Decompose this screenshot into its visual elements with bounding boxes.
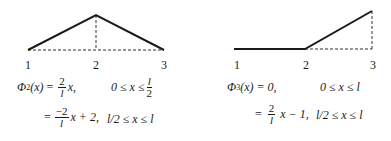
phi2-node-2-label: 2 <box>93 59 99 71</box>
phi2-fraction-2-den: l <box>60 118 63 129</box>
phi2-node-1-label: 1 <box>25 59 31 71</box>
phi2-eq2-sign: = <box>44 110 51 125</box>
phi2-condition-2: l/2 ≤ x ≤ l <box>107 112 154 127</box>
phi2-fraction-1-den: l <box>60 88 63 99</box>
phi2-eq-sign: = <box>46 80 53 95</box>
phi3-arg: (x) = 0, <box>240 80 276 95</box>
phi3-equation-line1: Φ3(x) = 0, <box>227 80 277 95</box>
phi3-line2-rest: x − 1, <box>280 107 308 122</box>
phi2-condition-1: 0 ≤ x ≤ l 2 <box>111 76 154 99</box>
phi2-line1-rest: x, <box>68 80 76 95</box>
phi3-node-1-label: 1 <box>234 59 240 71</box>
phi3-fraction-den: l <box>270 115 273 126</box>
phi3-node-3-label: 3 <box>370 59 376 71</box>
phi3-plot <box>234 11 372 49</box>
phi2-symbol: Φ <box>17 80 26 95</box>
phi2-condition-1-frac: l 2 <box>147 76 153 99</box>
phi3-eq2-sign: = <box>255 107 262 122</box>
phi2-arg: (x) <box>30 80 43 95</box>
phi3-curve <box>234 11 372 49</box>
phi2-equation-line2: = −2 l x + 2, <box>44 106 99 129</box>
phi3-fraction: 2 l <box>268 103 276 126</box>
phi2-plot <box>28 15 164 50</box>
phi2-fraction-2: −2 l <box>55 106 69 129</box>
phi3-condition-1: 0 ≤ x ≤ l <box>320 80 360 95</box>
phi2-node-3-label: 3 <box>161 59 167 71</box>
phi2-fraction-1: 2 l <box>58 76 66 99</box>
phi3-node-2-label: 2 <box>303 59 309 71</box>
phi2-condition-1-pre: 0 ≤ x ≤ <box>111 80 145 95</box>
phi3-condition-2: l/2 ≤ x ≤ l <box>316 108 363 123</box>
phi2-equation-line1: Φ2(x) = 2 l x, <box>17 76 76 99</box>
phi2-condition-1-den: 2 <box>147 88 153 99</box>
phi2-line2-rest: x + 2, <box>71 110 99 125</box>
phi3-symbol: Φ <box>227 80 236 95</box>
phi3-equation-line2: = 2 l x − 1, <box>255 103 309 126</box>
